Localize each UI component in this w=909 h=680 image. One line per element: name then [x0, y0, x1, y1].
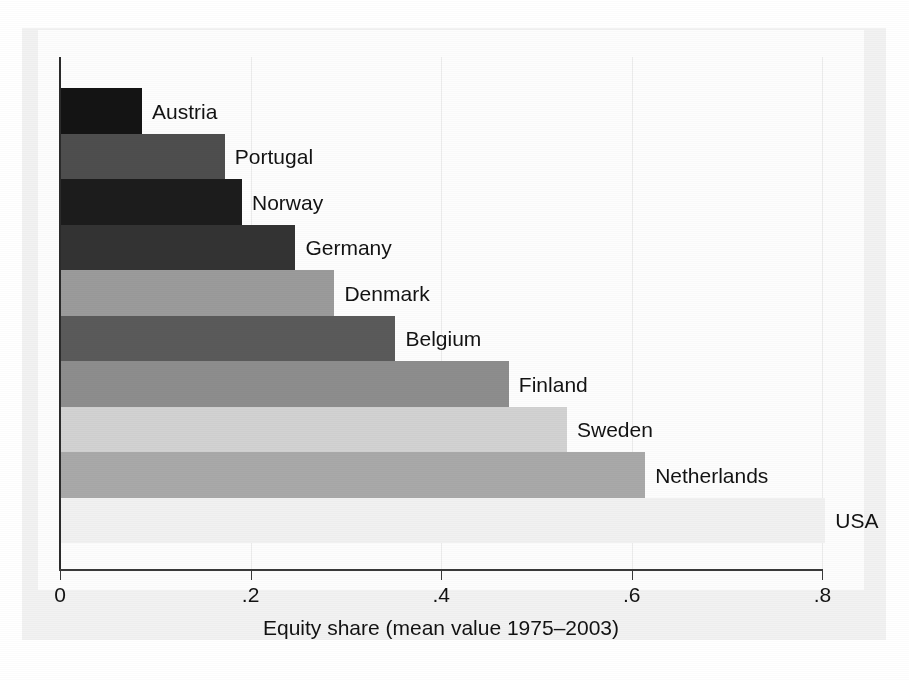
bar-label-portugal: Portugal [235, 146, 313, 167]
bar-belgium [60, 316, 395, 362]
x-tick-label-0: 0 [37, 583, 83, 607]
x-tick-label-4: .8 [799, 583, 845, 607]
bar-label-belgium: Belgium [405, 328, 481, 349]
bar-label-denmark: Denmark [344, 283, 429, 304]
bar-germany [60, 225, 295, 271]
bar-denmark [60, 270, 334, 316]
bar-usa [60, 498, 825, 544]
bar-label-norway: Norway [252, 192, 323, 213]
bar-austria [60, 88, 142, 134]
x-tick-label-2: .4 [418, 583, 464, 607]
tickmark-4 [822, 571, 823, 580]
x-tick-label-1: .2 [228, 583, 274, 607]
bar-label-austria: Austria [152, 101, 217, 122]
x-tick-label-3: .6 [609, 583, 655, 607]
x-axis-title: Equity share (mean value 1975–2003) [59, 616, 823, 640]
bar-label-sweden: Sweden [577, 419, 653, 440]
bar-label-germany: Germany [305, 237, 391, 258]
horizontal-bar-chart: AustriaPortugalNorwayGermanyDenmarkBelgi… [0, 0, 909, 680]
gridline-08 [822, 57, 823, 570]
bar-label-usa: USA [835, 510, 878, 531]
bar-finland [60, 361, 509, 407]
bar-label-finland: Finland [519, 374, 588, 395]
bar-norway [60, 179, 242, 225]
bar-sweden [60, 407, 567, 453]
tickmark-2 [441, 571, 442, 580]
chart-page: AustriaPortugalNorwayGermanyDenmarkBelgi… [0, 0, 909, 680]
tickmark-1 [251, 571, 252, 580]
bar-netherlands [60, 452, 645, 498]
y-axis-line [59, 57, 61, 571]
bar-portugal [60, 134, 225, 180]
tickmark-3 [632, 571, 633, 580]
tickmark-0 [60, 571, 61, 580]
bar-label-netherlands: Netherlands [655, 465, 768, 486]
